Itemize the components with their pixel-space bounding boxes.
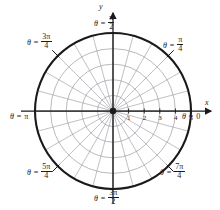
fraction-denominator: 2 — [108, 197, 118, 206]
fraction-denominator: 2 — [108, 22, 114, 31]
radial-tick-label: 2 — [143, 114, 147, 122]
polar-spoke — [93, 36, 113, 111]
fraction-denominator: 4 — [41, 171, 51, 180]
angle-label-fraction: π2 — [108, 14, 114, 32]
radial-tick-label: 3 — [158, 114, 162, 122]
radial-tick-label: 4 — [174, 114, 178, 122]
angle-label-theta-pi: θ = π — [10, 113, 28, 121]
polar-spoke — [93, 111, 113, 186]
angle-label-theta-7pi-4: θ = 7π4 — [160, 163, 185, 181]
angle-label-prefix: θ = — [182, 112, 196, 121]
angle-label-fraction: 7π4 — [174, 163, 184, 181]
fraction-denominator: 4 — [177, 44, 183, 53]
angle-label-theta-pi-4: θ = π4 — [163, 36, 183, 54]
polar-spoke — [45, 111, 113, 150]
angle-label-fraction: 3π4 — [41, 33, 51, 51]
polar-spoke — [58, 111, 113, 166]
angle-label-theta-3pi-4: θ = 3π4 — [27, 33, 52, 51]
polar-spoke — [113, 72, 181, 111]
polar-spoke — [38, 111, 113, 131]
fraction-numerator: π — [108, 14, 114, 22]
angle-label-prefix: θ = — [163, 41, 177, 50]
y-axis-label: y — [99, 2, 103, 11]
fraction-denominator: 4 — [174, 171, 184, 180]
angle-label-prefix: θ = — [160, 168, 174, 177]
angle-label-prefix: θ = — [94, 194, 108, 203]
polar-spoke — [113, 91, 188, 111]
x-axis-label: x — [205, 98, 209, 107]
fraction-numerator: 7π — [174, 163, 184, 171]
angle-label-theta-0: θ = 0 — [182, 113, 200, 121]
fraction-numerator: 3π — [41, 33, 51, 41]
polar-spoke — [74, 43, 113, 111]
angle-label-fraction: 5π4 — [41, 163, 51, 181]
angle-label-theta-5pi-4: θ = 5π4 — [27, 163, 52, 181]
polar-spoke — [113, 111, 133, 186]
polar-spoke — [45, 72, 113, 111]
polar-spoke — [113, 36, 133, 111]
angle-label-theta-pi-2: θ = π2 — [94, 14, 114, 32]
angle-label-value: π — [24, 112, 28, 121]
radial-tick-label: 1 — [127, 114, 131, 122]
angle-label-value: 0 — [196, 112, 200, 121]
polar-spoke — [113, 43, 152, 111]
angle-label-prefix: θ = — [94, 19, 108, 28]
polar-grid-figure: x y 12345 θ = 0θ = π4θ = π2θ = 3π4θ = πθ… — [0, 0, 220, 210]
polar-spoke — [58, 56, 113, 111]
polar-spoke — [113, 56, 168, 111]
angle-label-prefix: θ = — [10, 112, 24, 121]
polar-spoke — [113, 111, 181, 150]
polar-spoke — [74, 111, 113, 179]
outer-tick-mark — [52, 50, 59, 57]
fraction-denominator: 4 — [41, 41, 51, 50]
angle-label-prefix: θ = — [27, 168, 41, 177]
angle-label-fraction: 3π2 — [108, 189, 118, 207]
fraction-numerator: 3π — [108, 189, 118, 197]
polar-spoke — [38, 91, 113, 111]
fraction-numerator: π — [177, 36, 183, 44]
outer-tick-mark — [52, 165, 59, 172]
pole-dot — [110, 108, 116, 114]
angle-label-prefix: θ = — [27, 38, 41, 47]
pole-origin-dot — [110, 108, 116, 114]
fraction-numerator: 5π — [41, 163, 51, 171]
angle-label-fraction: π4 — [177, 36, 183, 54]
angle-label-theta-3pi-2: θ = 3π2 — [94, 189, 119, 207]
